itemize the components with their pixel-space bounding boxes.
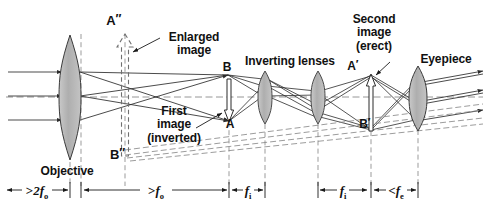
label-b-double-prime: B″ bbox=[110, 148, 126, 163]
second-image-line-2: image bbox=[357, 25, 391, 39]
prime-mark-b-double: ″ bbox=[119, 146, 125, 160]
first-image-line-1: First bbox=[161, 104, 187, 118]
prime-mark-a: ′ bbox=[356, 58, 359, 70]
incoming-rays bbox=[8, 72, 62, 120]
dimension-label-f-i-2: fi bbox=[340, 183, 347, 199]
label-second-image: Second image (erect) bbox=[353, 13, 396, 53]
label-eyepiece: Eyepiece bbox=[420, 53, 471, 66]
lens-eyepiece bbox=[409, 66, 427, 131]
label-a-double-prime: A″ bbox=[106, 14, 122, 29]
label-point-a-prime: A′ bbox=[347, 60, 359, 73]
label-point-a: A bbox=[226, 118, 235, 131]
dim-sub-3: i bbox=[344, 191, 346, 201]
first-image-arrow bbox=[224, 79, 233, 122]
dim-sub-1: o bbox=[160, 191, 164, 201]
dimension-label-f-i-1: fi bbox=[245, 183, 252, 199]
prime-mark-a-double: ″ bbox=[115, 12, 121, 26]
dimension-label-f-e: <fe bbox=[388, 183, 404, 199]
prime-mark-b: ′ bbox=[368, 116, 371, 128]
exit-rays bbox=[422, 71, 483, 120]
between-inverting-lenses-rays bbox=[267, 79, 316, 117]
label-objective: Objective bbox=[40, 165, 93, 178]
dim-symbol-0: 2f bbox=[33, 183, 44, 198]
dim-sub-4: e bbox=[400, 191, 404, 201]
label-first-image: First image (inverted) bbox=[147, 105, 201, 145]
label-point-b: B bbox=[223, 61, 232, 74]
label-enlarged-image: Enlarged image bbox=[169, 31, 220, 58]
optics-ray-diagram: A″ Enlarged image B″ Objective First ima… bbox=[0, 0, 489, 213]
dimension-label-f-o: >fo bbox=[148, 183, 164, 199]
first-image-line-3: (inverted) bbox=[147, 131, 201, 145]
dimension-bar bbox=[7, 182, 418, 198]
enlarged-image-line-1: Enlarged bbox=[169, 30, 220, 44]
label-point-b-prime: B′ bbox=[359, 118, 371, 131]
lens-objective bbox=[59, 35, 81, 160]
dim-sub-2: i bbox=[249, 191, 251, 201]
second-image-line-3: (erect) bbox=[356, 39, 392, 53]
dim-sub-0: o bbox=[44, 191, 48, 201]
second-image-line-1: Second bbox=[353, 12, 396, 26]
enlarged-image-line-2: image bbox=[177, 43, 211, 57]
ray-diagram-canvas bbox=[0, 0, 489, 213]
first-image-line-2: image bbox=[157, 117, 191, 131]
dimension-label-two-f-o: >2fo bbox=[26, 183, 49, 199]
label-inverting-lenses: Inverting lenses bbox=[245, 55, 335, 68]
